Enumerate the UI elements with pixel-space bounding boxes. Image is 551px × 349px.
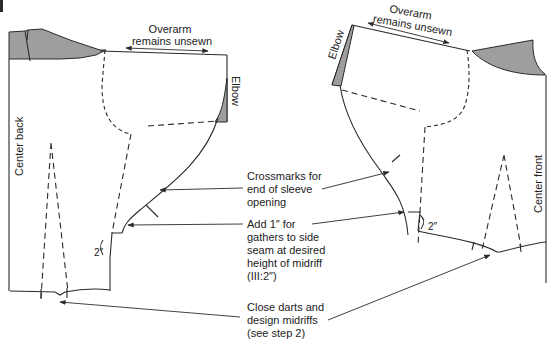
back-elbow-label: Elbow [230,76,242,106]
arrow-to-front-crossmark [322,172,389,189]
callout-gathers-line-4: height of midriff [247,257,323,269]
callout-gathers-line-5: (III:2″) [247,270,277,282]
back-overarm-arrow [126,48,208,51]
back-side-seam-dashed [112,134,131,233]
callout-darts-line-1: Close darts and [247,301,324,313]
front-sleeve-dash [342,90,420,111]
back-crossmark [146,205,158,217]
callout-darts-line-2: design midriffs [247,314,318,326]
back-elbow-shade [215,78,227,122]
center-back-label: Center back [13,116,25,176]
callout-gathers-line-3: seam at desired [247,244,325,256]
back-bodice-piece [9,29,227,299]
callout-darts-line-3: (see step 2) [247,327,305,339]
back-waist-dart [41,143,68,298]
back-sleeve-dash [148,121,218,126]
callout-crossmarks-line-1: Crossmarks for [247,170,322,182]
callout-gathers-line-1: Add 1″ for [247,218,296,230]
arrow-to-back-gathers [128,224,243,225]
arrow-to-back-hem [60,302,240,317]
back-overarm-label-2: remains unsewn [132,35,212,47]
arrow-to-front-gathers [312,212,404,224]
front-hem [418,231,546,252]
callout-gathers-line-2: gathers to side [247,231,319,243]
front-gather-addition [408,212,420,231]
center-front-label: Center front [532,155,544,213]
front-measure-label: 2″ [428,221,438,232]
arrow-to-front-hem [328,255,490,320]
back-armhole-dashed [102,50,130,134]
corner-mark [0,0,3,12]
front-armhole-dashed [425,50,469,127]
back-underarm-curve [122,118,218,233]
back-measure-label: 2″ [94,247,104,258]
back-hem [10,289,110,295]
front-neck-shade [472,40,545,75]
callout-crossmarks-line-3: opening [247,196,286,208]
arrow-to-back-crossmark [160,188,243,190]
callout-crossmarks: Crossmarks for end of sleeve opening [160,170,389,208]
front-bodice-piece [332,23,546,283]
callout-add-gathers: Add 1″ for gathers to side seam at desir… [128,212,404,282]
front-hem-marks [472,242,521,252]
front-waist-dart [482,155,521,250]
front-crossmark [392,155,400,162]
callout-crossmarks-line-2: end of sleeve [247,183,312,195]
front-brace [420,215,424,229]
pattern-diagram: Overarm remains unsewn Elbow Center back… [0,0,551,349]
back-shoulder-shade [9,29,106,59]
back-overarm-label-1: Overarm [149,23,192,35]
back-gather-addition [110,233,122,258]
back-overarm-line [100,51,227,55]
